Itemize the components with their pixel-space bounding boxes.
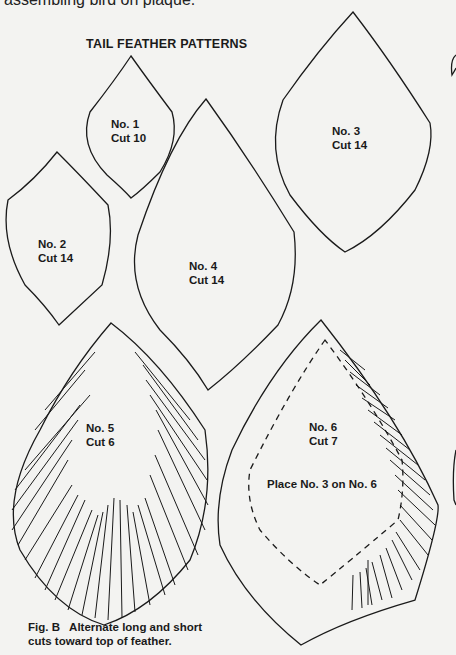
figure-caption: Fig. B Alternate long and short cuts tow… [28,620,202,648]
pattern-label-4: No. 4 Cut 14 [189,259,224,287]
pattern-label-3: No. 3 Cut 14 [332,124,367,152]
partial-outline-right-top [452,55,456,75]
feather-patterns-drawing [0,0,456,655]
dashed-outline-3-placement [249,340,403,585]
pattern-label-1: No. 1 Cut 10 [111,117,146,145]
feather-outline-4 [134,99,295,390]
pattern-label-5: No. 5 Cut 6 [86,421,115,449]
pattern-label-2: No. 2 Cut 14 [38,237,73,265]
pattern-label-6: No. 6 Cut 7 [309,420,338,448]
placement-note: Place No. 3 on No. 6 [267,477,377,491]
